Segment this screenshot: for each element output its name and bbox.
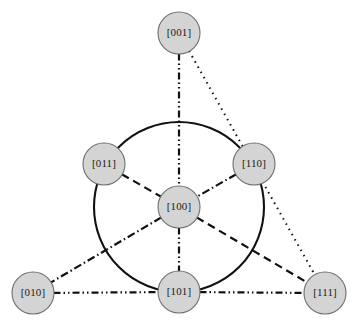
edge-010-101 [53,292,158,293]
crystal-direction-diagram: [001][011][110][100][010][101][111] [0,0,359,324]
node-label-010: [010] [21,286,45,298]
node-label-101: [101] [167,285,191,297]
node-label-111: [111] [313,286,337,298]
node-label-110: [110] [242,157,266,169]
node-101[interactable]: [101] [158,271,200,313]
node-001[interactable]: [001] [158,12,200,54]
node-010[interactable]: [010] [12,272,54,314]
node-label-011: [011] [92,157,116,169]
edge-110-100 [197,174,236,197]
node-011[interactable]: [011] [83,143,125,185]
edge-101-111 [199,292,304,293]
node-100[interactable]: [100] [158,186,200,228]
diagram-canvas: [001][011][110][100][010][101][111] [0,0,359,324]
node-label-001: [001] [167,26,191,38]
node-label-100: [100] [167,200,191,212]
edge-011-100 [122,174,161,197]
node-111[interactable]: [111] [304,272,346,314]
node-110[interactable]: [110] [233,143,275,185]
